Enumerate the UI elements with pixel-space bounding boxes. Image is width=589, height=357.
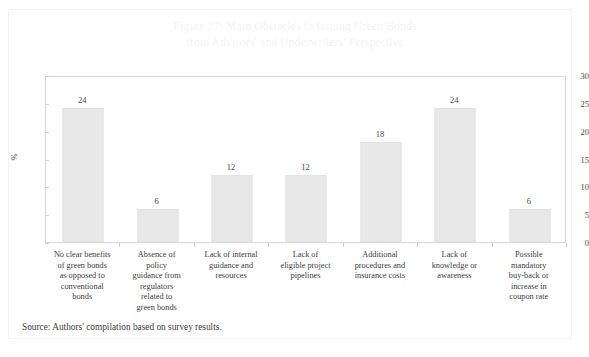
x-tick-mark [492, 243, 493, 247]
plot-area [45, 76, 566, 243]
bar-value-label: 18 [376, 129, 385, 139]
bar[interactable] [360, 142, 401, 242]
y-tick-label: 15 [545, 155, 589, 165]
x-axis-category-label: Lack ofeligible projectpipelines [268, 250, 342, 282]
x-axis-category-line: policy [119, 261, 193, 272]
x-axis-category-line: Additional [343, 250, 417, 261]
bar-slot [269, 77, 343, 242]
bar-slot [195, 77, 269, 242]
x-axis-category-label: Absence ofpolicyguidance fromregulatorsr… [119, 250, 193, 313]
bar[interactable] [63, 108, 104, 242]
x-axis-category-line: resources [194, 271, 268, 282]
bars-layer [46, 77, 565, 242]
x-axis-category-line: Lack of internal [194, 250, 268, 261]
x-axis-category-line: buy-back or [492, 271, 566, 282]
x-axis-category-line: regulators [119, 282, 193, 293]
y-tick-mark [45, 160, 49, 161]
x-axis-category-line: coupon rate [492, 292, 566, 303]
x-axis-category-line: awareness [417, 271, 491, 282]
x-axis-category-line: No clear benefits [45, 250, 119, 261]
y-axis-ticks [0, 0, 41, 243]
x-tick-mark [119, 243, 120, 247]
bar[interactable] [137, 209, 178, 242]
x-axis-category-label: Lack ofknowledge orawareness [417, 250, 491, 282]
source-note: Source: Authors' compilation based on su… [22, 322, 222, 332]
x-axis-category-line: Absence of [119, 250, 193, 261]
y-tick-mark [45, 76, 49, 77]
x-axis-category-line: Lack of [417, 250, 491, 261]
x-axis-category-line: pipelines [268, 271, 342, 282]
bar[interactable] [435, 108, 476, 242]
x-axis-category-line: mandatory [492, 261, 566, 272]
x-axis-category-line: of green bonds [45, 261, 119, 272]
x-axis-category-line: knowledge or [417, 261, 491, 272]
y-tick-label: 0 [545, 238, 589, 248]
x-axis-category-line: Lack of [268, 250, 342, 261]
x-axis-category-line: bonds [45, 292, 119, 303]
x-axis-category-line: increase in [492, 282, 566, 293]
x-axis-category-line: guidance from [119, 271, 193, 282]
figure-container: Figure 27: Main Obstacles to Issuing Gre… [0, 0, 589, 357]
x-axis-category-line: procedures and [343, 261, 417, 272]
x-axis-category-label: Possiblemandatorybuy-back orincrease inc… [492, 250, 566, 303]
bar-value-label: 6 [155, 196, 159, 206]
x-axis-category-line: guidance and [194, 261, 268, 272]
x-tick-mark [343, 243, 344, 247]
x-axis-category-line: Possible [492, 250, 566, 261]
x-axis-category-line: insurance costs [343, 271, 417, 282]
bar-slot [120, 77, 194, 242]
x-tick-mark [194, 243, 195, 247]
y-tick-label: 20 [545, 127, 589, 137]
bar-value-label: 12 [301, 162, 310, 172]
y-tick-label: 5 [545, 210, 589, 220]
x-axis-category-label: Lack of internalguidance andresources [194, 250, 268, 282]
chart-title: Figure 27: Main Obstacles to Issuing Gre… [70, 18, 520, 50]
y-tick-mark [45, 215, 49, 216]
x-axis-category-label: No clear benefitsof green bondsas oppose… [45, 250, 119, 303]
bar-value-label: 24 [78, 95, 87, 105]
y-tick-label: 25 [545, 99, 589, 109]
y-tick-mark [45, 187, 49, 188]
bar-value-label: 12 [227, 162, 236, 172]
x-tick-mark [417, 243, 418, 247]
x-axis-category-line: as opposed to [45, 271, 119, 282]
bar[interactable] [212, 175, 253, 242]
bar-value-label: 6 [527, 196, 531, 206]
bar-value-label: 24 [450, 95, 459, 105]
y-tick-label: 10 [545, 182, 589, 192]
y-tick-mark [45, 104, 49, 105]
bar[interactable] [286, 175, 327, 242]
bar-slot [344, 77, 418, 242]
y-tick-mark [45, 243, 49, 244]
x-tick-mark [268, 243, 269, 247]
x-axis-category-line: conventional [45, 282, 119, 293]
x-axis-category-label: Additionalprocedures andinsurance costs [343, 250, 417, 282]
x-axis-category-line: green bonds [119, 303, 193, 314]
x-axis-category-line: related to [119, 292, 193, 303]
y-tick-label: 30 [545, 71, 589, 81]
y-tick-mark [45, 132, 49, 133]
x-axis-category-line: eligible project [268, 261, 342, 272]
